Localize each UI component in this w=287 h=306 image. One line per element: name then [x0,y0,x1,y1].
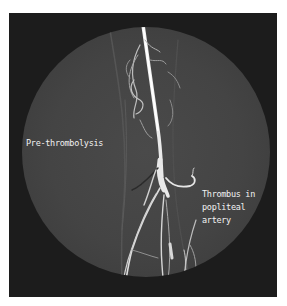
thrombus-label-line1: Thrombus in [202,189,255,199]
thrombus-label-line2: popliteal [202,202,245,212]
thrombus-label: Thrombus in popliteal artery [202,188,255,227]
vessel-tree [0,0,287,306]
pre-thrombolysis-label: Pre-thrombolysis [26,137,103,150]
thrombus-label-line3: artery [202,215,231,225]
